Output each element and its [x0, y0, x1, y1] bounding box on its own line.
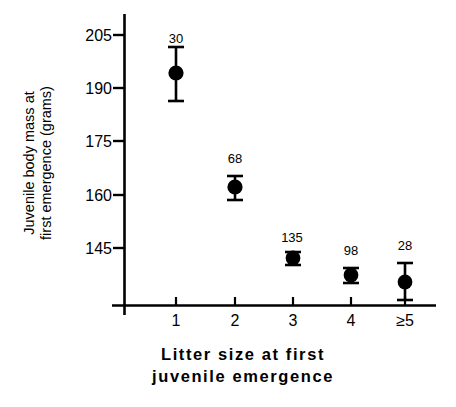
- data-marker-4: [344, 268, 359, 283]
- data-point-group-2: [227, 176, 243, 200]
- data-point-group-3: [285, 251, 301, 266]
- y-axis-ticks: [113, 35, 124, 248]
- data-point-group-1: [168, 47, 184, 101]
- data-marker-5: [398, 275, 413, 290]
- data-marker-1: [168, 65, 183, 80]
- data-point-group-5: [397, 263, 413, 300]
- data-marker-3: [286, 251, 301, 266]
- x-axis-title-line-2: juvenile emergence: [78, 366, 408, 388]
- x-axis-title: Litter size at first juvenile emergence: [78, 344, 408, 388]
- x-axis-title-line-1: Litter size at first: [78, 344, 408, 366]
- data-marker-2: [227, 179, 242, 194]
- data-point-group-4: [343, 268, 359, 283]
- data-series: [168, 47, 413, 300]
- chart-figure: Juvenile body mass at first emergence (g…: [0, 0, 456, 407]
